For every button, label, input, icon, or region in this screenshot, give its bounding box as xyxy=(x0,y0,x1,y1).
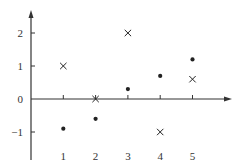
dot-marker-icon xyxy=(61,127,65,131)
dot-marker-icon xyxy=(190,57,194,61)
cross-marker-icon xyxy=(60,63,66,69)
ticks xyxy=(31,33,193,132)
x-tick-label: 4 xyxy=(157,150,163,162)
y-tick-label: 2 xyxy=(18,27,24,39)
y-tick-label: 1 xyxy=(18,60,24,72)
x-tick-label: 2 xyxy=(93,150,99,162)
x-axis-arrow-icon xyxy=(224,97,232,102)
dot-marker-icon xyxy=(158,74,162,78)
y-axis-arrow-icon xyxy=(29,10,34,18)
x-tick-label: 3 xyxy=(125,150,131,162)
y-tick-label: 0 xyxy=(18,93,24,105)
y-tick-label: −1 xyxy=(11,126,23,138)
data-points xyxy=(60,30,196,135)
cross-marker-icon xyxy=(157,129,163,135)
cross-marker-icon xyxy=(189,76,195,82)
axes xyxy=(29,10,233,160)
cross-marker-icon xyxy=(125,30,131,36)
tick-labels: 12345210−1 xyxy=(11,27,195,162)
dot-marker-icon xyxy=(126,87,130,91)
dot-marker-icon xyxy=(94,117,98,121)
x-tick-label: 5 xyxy=(190,150,196,162)
scatter-chart: 12345210−1 xyxy=(0,0,239,165)
x-tick-label: 1 xyxy=(61,150,67,162)
